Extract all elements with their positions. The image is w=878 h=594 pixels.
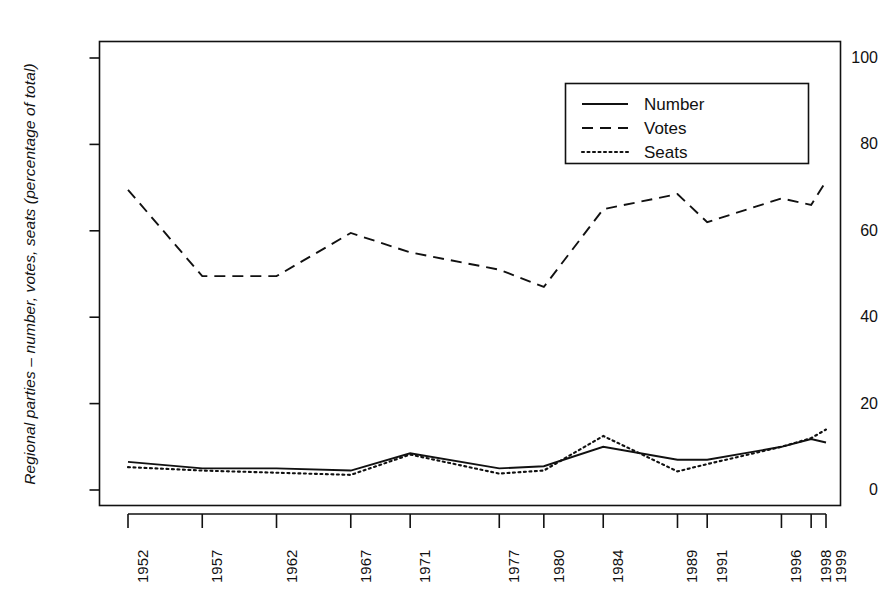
- series-line-votes: [128, 181, 826, 287]
- series-line-number: [128, 439, 826, 471]
- legend-label-number: Number: [644, 95, 705, 114]
- chart-figure: Regional parties – number, votes, seats …: [0, 0, 878, 594]
- chart-legend: NumberVotesSeats: [566, 84, 809, 164]
- series-lines: [128, 181, 826, 475]
- plot-area: NumberVotesSeats: [0, 0, 878, 594]
- legend-label-seats: Seats: [644, 143, 687, 162]
- legend-label-votes: Votes: [644, 119, 687, 138]
